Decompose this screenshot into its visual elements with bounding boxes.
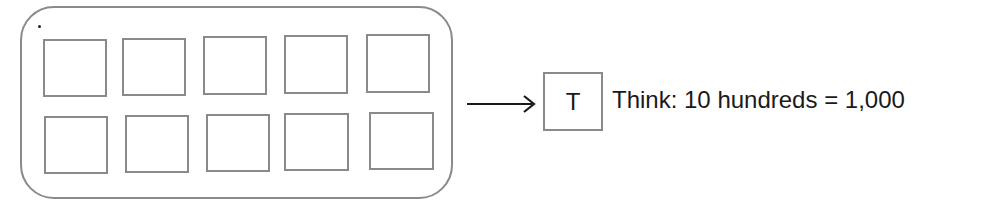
hundred-square — [125, 115, 189, 173]
hundred-square — [203, 36, 267, 95]
hundred-square — [366, 34, 430, 93]
hundred-square — [122, 38, 186, 96]
hundred-square — [369, 112, 434, 170]
right-arrow-icon — [466, 92, 538, 116]
thousands-label: T — [566, 88, 581, 116]
hundred-square — [43, 39, 107, 97]
hundred-square — [284, 113, 349, 171]
stray-dot — [38, 25, 41, 28]
hundred-square — [44, 116, 108, 174]
hundred-square — [284, 35, 348, 94]
thousands-box: T — [543, 72, 603, 131]
think-statement: Think: 10 hundreds = 1,000 — [612, 86, 905, 114]
hundred-square — [206, 114, 270, 172]
